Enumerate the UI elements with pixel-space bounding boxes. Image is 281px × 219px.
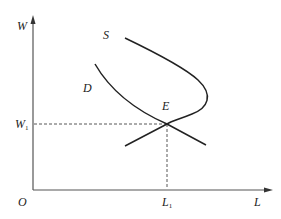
y-axis-label: W	[17, 20, 27, 32]
diagram-canvas: W O L S D E W1 L1	[0, 0, 281, 219]
quantity-label-main: L	[162, 195, 169, 209]
x-axis-arrow-icon	[264, 188, 273, 193]
origin-label: O	[18, 196, 27, 208]
equilibrium-wage-label: W1	[15, 118, 29, 132]
x-axis-label: L	[254, 196, 261, 208]
diagram-svg	[0, 0, 281, 219]
wage-label-main: W	[15, 117, 25, 131]
wage-label-sub: 1	[25, 124, 29, 132]
equilibrium-label: E	[162, 100, 169, 112]
supply-curve-label: S	[103, 29, 109, 41]
quantity-label-sub: 1	[169, 202, 173, 210]
equilibrium-quantity-label: L1	[162, 196, 172, 210]
y-axis-arrow-icon	[31, 15, 36, 24]
supply-curve	[125, 38, 207, 146]
demand-curve-label: D	[83, 82, 92, 94]
